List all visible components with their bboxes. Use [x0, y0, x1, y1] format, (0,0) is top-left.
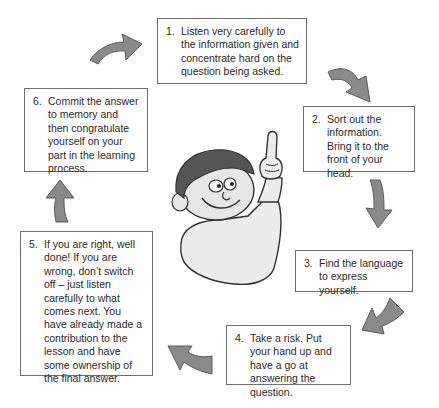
step-text: Listen very carefully to the information… — [181, 25, 300, 79]
step-text: Find the language to express yourself. — [319, 257, 406, 297]
step-4-box: 4. Take a risk. Put your hand up and hav… — [226, 325, 351, 385]
step-number: 5. — [29, 238, 44, 385]
step-text: If you are right, well done! If you are … — [44, 238, 146, 385]
step-2-box: 2. Sort out the information. Bring it to… — [303, 106, 415, 172]
step-number: 4. — [235, 332, 250, 399]
step-number: 6. — [33, 95, 48, 175]
step-6-box: 6. Commit the answer to memory and then … — [24, 88, 148, 172]
cartoon-child-raising-finger-illustration — [162, 128, 292, 288]
step-text: Sort out the information. Bring it to th… — [327, 113, 408, 180]
step-1-box: 1. Listen very carefully to the informat… — [157, 18, 307, 84]
curved-arrow-icon — [360, 296, 406, 336]
curved-arrow-icon — [326, 58, 376, 104]
curved-arrow-icon — [166, 342, 214, 378]
step-number: 3. — [304, 257, 319, 297]
step-5-box: 5. If you are right, well done! If you a… — [20, 231, 153, 376]
curved-arrow-icon — [42, 178, 76, 224]
step-number: 2. — [312, 113, 327, 180]
step-text: Take a risk. Put your hand up and have a… — [250, 332, 344, 399]
step-number: 1. — [166, 25, 181, 79]
curved-arrow-icon — [88, 30, 144, 66]
step-text: Commit the answer to memory and then con… — [48, 95, 141, 175]
curved-arrow-icon — [362, 178, 396, 230]
step-3-box: 3. Find the language to express yourself… — [295, 250, 413, 292]
